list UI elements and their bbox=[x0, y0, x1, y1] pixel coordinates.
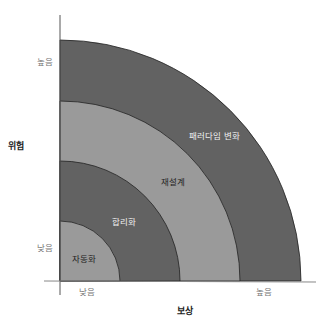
y-axis-high-label: 높음 bbox=[37, 58, 53, 67]
x-axis-title: 보상 bbox=[177, 307, 193, 316]
x-axis-low-label: 낮음 bbox=[79, 288, 95, 297]
quarter-circle-bands bbox=[0, 0, 333, 331]
x-axis-high-label: 높음 bbox=[256, 288, 272, 297]
y-axis-title: 위험 bbox=[8, 142, 24, 151]
band-label-redesign: 재설계 bbox=[161, 178, 185, 187]
band-label-paradigm-shift: 패러다임 변화 bbox=[189, 132, 240, 141]
y-axis-low-label: 낮음 bbox=[37, 244, 53, 253]
band-label-automation: 자동화 bbox=[72, 255, 96, 264]
risk-reward-diagram: 높음 위험 낮음 낮음 높음 보상 자동화 합리화 재설계 패러다임 변화 bbox=[0, 0, 333, 331]
band-label-rationalization: 합리화 bbox=[112, 218, 136, 227]
